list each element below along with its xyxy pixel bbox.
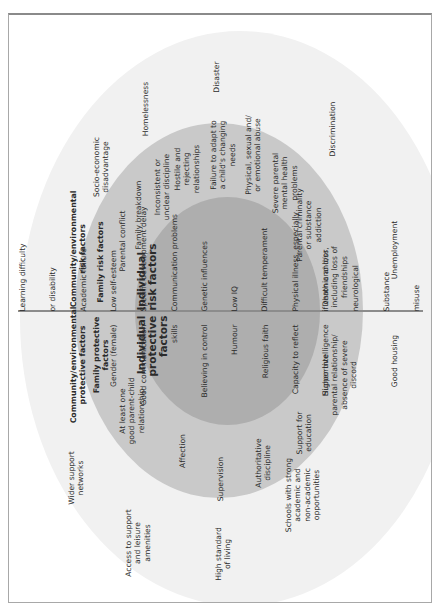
- family-risk-item-3: Hostile and rejecting relationships: [173, 145, 201, 194]
- risk-item-homelessness: Homelessness: [141, 82, 150, 137]
- individual-risk-item: Genetic influences: [200, 206, 210, 311]
- family-protective-item-2: Supervision: [216, 457, 225, 501]
- risk-item-disaster: Disaster: [212, 61, 221, 92]
- individual-risk-item: neurological: [351, 206, 361, 311]
- family-protective-item-3: Authoritative discipline: [254, 438, 273, 488]
- community-protective-heading: Community/environmental protective facto…: [69, 307, 88, 424]
- individual-protective-item: Religious faith: [260, 324, 270, 405]
- individual-protective-item: Gender (female): [109, 324, 119, 405]
- protective-item-wider-support: Wider support networks: [67, 451, 86, 505]
- individual-protective-item: Capacity to reflect: [291, 324, 301, 405]
- risk-item-discrimination: Discrimination: [328, 102, 337, 157]
- individual-protective-item: Good communication: [139, 324, 149, 405]
- individual-risk-item: or disability: [48, 206, 58, 311]
- individual-risk-item: if chronic and/or: [321, 206, 331, 311]
- protective-item-schools: Schools with strong academic and non-aca…: [284, 458, 322, 532]
- individual-risk-item: Difficult temperament: [260, 206, 270, 311]
- family-protective-item-1: Affection: [178, 434, 187, 468]
- individual-protective-item: Believing in control: [200, 324, 210, 405]
- risk-item-socioeconomic: Socio-economic disadvantage: [92, 137, 111, 197]
- individual-risk-item: Specific development delay: [139, 206, 149, 311]
- individual-protective-item: Humour: [230, 324, 240, 405]
- individual-risk-item: Learning difficulty: [18, 206, 28, 311]
- diagram-frame: Community/environmental risk factors Soc…: [8, 13, 432, 603]
- protective-item-access-support: Access to support and leisure amenities: [124, 509, 152, 577]
- individual-protective-item: Higher intelligence: [321, 324, 331, 405]
- family-protective-item-4: Support for education: [295, 412, 314, 455]
- individual-protective-item: skills: [170, 324, 180, 405]
- individual-risk-item: Low self-esteem: [109, 206, 119, 311]
- individual-risk-item: Substance: [382, 206, 392, 311]
- family-risk-item-5: Physical, sexual and/ or emotional abuse: [244, 115, 263, 195]
- individual-risk-item: Physical illness, especially: [291, 206, 301, 311]
- individual-risk-item: Low IQ: [230, 206, 240, 311]
- individual-protective-list: Gender (female) Good communication skill…: [89, 324, 351, 405]
- individual-risk-item: misuse: [412, 206, 422, 311]
- protective-item-high-standard: High standard of living: [214, 527, 233, 581]
- individual-risk-list: Learning difficulty or disability Academ…: [8, 206, 432, 311]
- individual-risk-item: Academic failure: [79, 206, 89, 311]
- family-risk-item-4: Failure to adapt to a child's changing n…: [209, 120, 237, 189]
- protective-item-good-housing: Good housing: [390, 335, 399, 387]
- individual-risk-item: Communication problems: [170, 206, 180, 311]
